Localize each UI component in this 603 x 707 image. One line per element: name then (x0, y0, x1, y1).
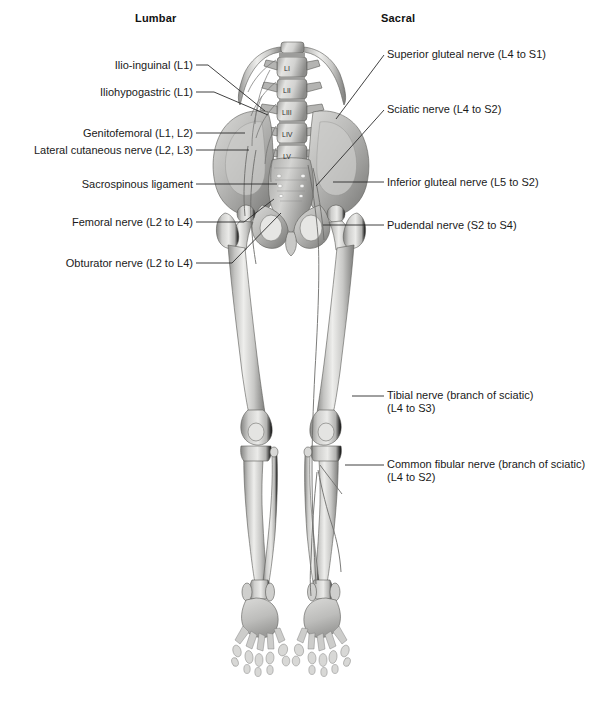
vertebra-label-li: LI (284, 62, 290, 75)
label-common-fibular-nerve-line1: Common fibular nerve (branch of sciatic) (387, 458, 585, 471)
label-lateral-cutaneous-nerve: Lateral cutaneous nerve (L2, L3) (34, 144, 193, 157)
header-lumbar: Lumbar (135, 12, 177, 24)
label-genitofemoral: Genitofemoral (L1, L2) (83, 127, 193, 140)
vertebra-label-liv: LIV (282, 128, 293, 141)
label-common-fibular-nerve: Common fibular nerve (branch of sciatic)… (387, 458, 585, 484)
skeleton-illustration (0, 0, 603, 707)
leader-superior-gluteal-nerve (336, 55, 384, 119)
label-tibial-nerve-line2: (L4 to S3) (387, 402, 533, 415)
vertebra-label-liii: LIII (282, 106, 292, 119)
leader-iliohypogastric (196, 92, 268, 115)
label-sacrospinous-ligament: Sacrospinous ligament (82, 178, 193, 191)
label-tibial-nerve: Tibial nerve (branch of sciatic) (L4 to … (387, 389, 533, 415)
label-iliohypogastric: Iliohypogastric (L1) (100, 86, 193, 99)
leader-ilio-inguinal (196, 65, 265, 111)
leader-femoral-nerve (196, 199, 274, 222)
vertebra-label-lii: LII (283, 84, 291, 97)
label-superior-gluteal-nerve: Superior gluteal nerve (L4 to S1) (387, 48, 546, 61)
anatomy-figure-page: LI LII LIII LIV LV Lumbar Sacral Ilio-in… (0, 0, 603, 707)
label-ilio-inguinal: Ilio-inguinal (L1) (115, 59, 193, 72)
label-common-fibular-nerve-line2: (L4 to S2) (387, 471, 585, 484)
label-inferior-gluteal-nerve: Inferior gluteal nerve (L5 to S2) (387, 176, 539, 189)
label-obturator-nerve: Obturator nerve (L2 to L4) (66, 257, 193, 270)
leader-lines (0, 0, 603, 707)
label-tibial-nerve-line1: Tibial nerve (branch of sciatic) (387, 389, 533, 402)
leader-sciatic-nerve (316, 110, 384, 186)
vertebra-label-lv: LV (283, 150, 291, 163)
label-pudendal-nerve: Pudendal nerve (S2 to S4) (387, 219, 517, 232)
label-femoral-nerve: Femoral nerve (L2 to L4) (72, 216, 193, 229)
header-sacral: Sacral (381, 12, 415, 24)
leader-obturator-nerve (196, 213, 281, 263)
label-sciatic-nerve: Sciatic nerve (L4 to S2) (387, 103, 501, 116)
